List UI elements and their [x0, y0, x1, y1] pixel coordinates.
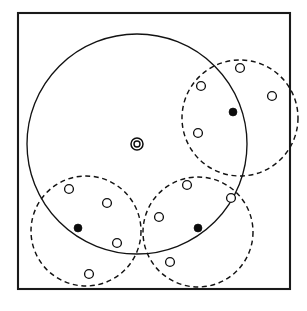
cluster-bottom-right	[143, 177, 253, 287]
cluster-top-right	[182, 60, 298, 176]
cluster-center-point-br-c1	[194, 224, 202, 232]
frame-border	[18, 13, 290, 289]
data-point-tr-p2	[197, 82, 206, 91]
data-point-tr-p1	[236, 64, 245, 73]
cluster-center-point-bl-c1	[74, 224, 82, 232]
centroid-core-dot	[136, 143, 139, 146]
centroid-marker	[131, 138, 143, 150]
data-point-bl-p4	[85, 270, 94, 279]
diagram-canvas	[0, 0, 307, 311]
data-point-br-p2	[155, 213, 164, 222]
data-point-bl-p3	[113, 239, 122, 248]
data-point-br-p3	[227, 194, 236, 203]
data-point-br-p1	[183, 181, 192, 190]
data-point-bl-p2	[103, 199, 112, 208]
diagram-figure	[0, 0, 307, 311]
data-point-br-p4	[166, 258, 175, 267]
cluster-group	[31, 60, 298, 287]
cluster-top-right-boundary	[182, 60, 298, 176]
cluster-center-point-tr-c1	[229, 108, 237, 116]
data-point-tr-p3	[268, 92, 277, 101]
cluster-bottom-left	[31, 176, 141, 286]
cluster-bottom-left-boundary	[31, 176, 141, 286]
data-point-bl-p1	[65, 185, 74, 194]
data-point-tr-p4	[194, 129, 203, 138]
